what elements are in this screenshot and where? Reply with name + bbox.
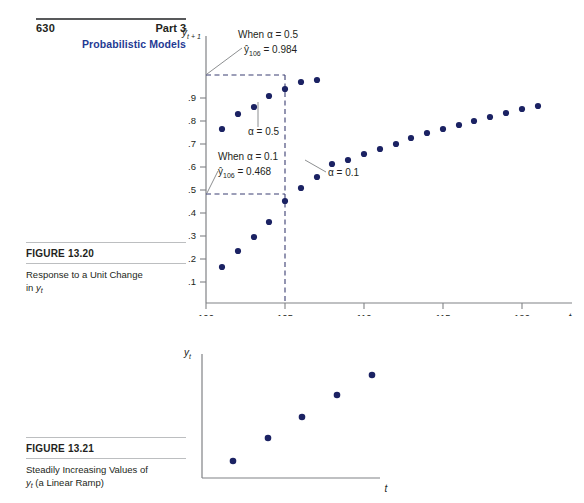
svg-text:When α = 0.5: When α = 0.5 — [238, 29, 298, 40]
svg-text:110: 110 — [356, 312, 371, 316]
part-title: Probabilistic Models — [36, 38, 186, 50]
figure-21-caption-rule-mid — [26, 458, 186, 459]
figure-21-caption-line2-suffix: (a Linear Ramp) — [33, 477, 104, 488]
figure-20-caption-line1: Response to a Unit Change — [26, 269, 143, 280]
figure-21-caption: Steadily Increasing Values of yt (a Line… — [26, 463, 186, 492]
svg-text:.6: .6 — [188, 161, 196, 172]
figure-20-caption-rule-mid — [26, 263, 186, 264]
figure-20-caption: Response to a Unit Change in yt — [26, 268, 186, 297]
figure-21-caption-rule-top — [26, 437, 186, 438]
svg-text:115: 115 — [435, 312, 450, 316]
svg-text:α = 0.5: α = 0.5 — [248, 126, 280, 137]
figure-20-title: FIGURE 13.20 — [26, 248, 94, 259]
figure-21-title: FIGURE 13.21 — [26, 443, 94, 454]
figure-13-21-chart: yt t — [180, 330, 400, 500]
figure-13-20-chart: ŷt + 1 .9 .8 .7 .6 .5 .4 .3 .2 .1 100 10… — [180, 14, 584, 316]
svg-text:.3: .3 — [188, 230, 196, 241]
svg-text:.1: .1 — [188, 276, 196, 287]
figure-20-caption-line2-prefix: in — [26, 282, 36, 293]
series-points-linear-ramp — [230, 372, 376, 465]
series-points-alpha-half — [219, 77, 320, 132]
annotation-alpha-half: When α = 0.5 ŷ106 = 0.984 — [207, 29, 298, 74]
header-rule — [36, 18, 186, 20]
svg-text:100: 100 — [198, 312, 214, 316]
svg-text:.9: .9 — [188, 92, 196, 103]
x-axis-label-2: t — [385, 483, 389, 494]
svg-text:α = 0.1: α = 0.1 — [328, 167, 360, 178]
svg-text:When α = 0.1: When α = 0.1 — [218, 151, 278, 162]
annotation-alpha-tenth: When α = 0.1 ŷ106 = 0.468 — [207, 151, 278, 193]
svg-text:.5: .5 — [188, 184, 196, 195]
svg-text:ŷ106 = 0.984: ŷ106 = 0.984 — [244, 44, 298, 57]
svg-text:120: 120 — [514, 312, 530, 316]
x-axis-ticks: 100 105 110 115 120 — [198, 303, 530, 316]
y-axis-label-2: yt — [183, 347, 192, 360]
y-axis-ticks: .9 .8 .7 .6 .5 .4 .3 .2 .1 — [188, 92, 206, 287]
x-axis-label: t — [569, 312, 573, 316]
figure-21-caption-line1: Steadily Increasing Values of — [26, 464, 148, 475]
part-label: Part 3 — [36, 22, 186, 34]
svg-text:.8: .8 — [188, 115, 196, 126]
figure-20-caption-rule-top — [26, 242, 186, 243]
svg-text:.7: .7 — [188, 138, 196, 149]
svg-text:.4: .4 — [188, 207, 196, 218]
y-axis-label: ŷt + 1 — [181, 27, 201, 40]
svg-text:.2: .2 — [188, 253, 196, 264]
svg-text:105: 105 — [277, 312, 293, 316]
svg-text:ŷ106 = 0.468: ŷ106 = 0.468 — [218, 166, 272, 179]
figure-20-caption-line2-sub: t — [41, 287, 43, 294]
